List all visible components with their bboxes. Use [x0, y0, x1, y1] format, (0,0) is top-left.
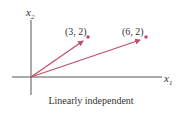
- figure-caption: Linearly independent: [48, 95, 133, 106]
- vector-3-2: [31, 41, 83, 77]
- vector-6-2: [31, 40, 140, 77]
- point-3-2-label: (3, 2): [65, 26, 87, 38]
- point-6-2-dot: [144, 35, 148, 39]
- y-axis-label: x2: [25, 6, 35, 21]
- point-6-2-label: (6, 2): [122, 26, 144, 38]
- point-3-2-dot: [86, 35, 90, 39]
- x-axis-label: x1: [163, 72, 172, 87]
- vector-diagram: x2 x1 (3, 2) (6, 2) Linearly independent: [0, 0, 188, 118]
